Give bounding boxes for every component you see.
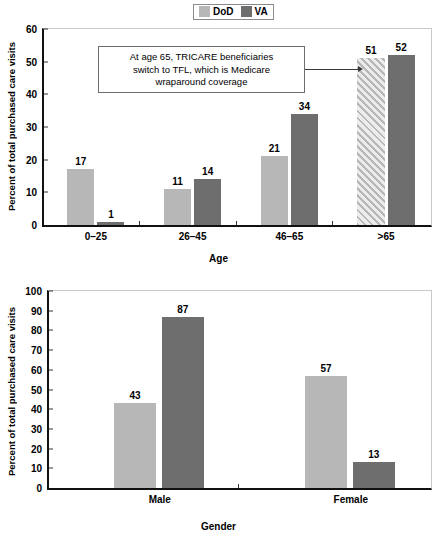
- gender-x-tick-label-female: Female: [334, 494, 368, 505]
- age-y-tick-label-30: 30: [26, 122, 44, 133]
- bar-value-gender-female-dod: 57: [320, 363, 331, 374]
- age-x-tick-label-46-65: 46–65: [275, 231, 303, 242]
- gender-y-tick-mark-100: [49, 291, 53, 292]
- bar-gender-male-dod: 43: [114, 403, 156, 488]
- gender-y-tick-mark-90: [49, 310, 53, 311]
- bar-value-gender-male-va: 87: [177, 304, 188, 315]
- gender-y-tick-label-20: 20: [31, 443, 49, 454]
- age-x-tick-mark-1: [139, 221, 140, 225]
- bar-age-46-65-va: 34: [291, 114, 318, 225]
- bar-value-age-over-65-dod: 51: [365, 45, 376, 56]
- gender-y-tick-label-50: 50: [31, 384, 49, 395]
- bar-value-age-over-65-va: 52: [396, 42, 407, 53]
- age-y-tick-label-10: 10: [26, 187, 44, 198]
- gender-chart-plot-area: 100 90 80 70 60 50 40 30 20 10 0 43: [47, 290, 432, 490]
- bar-value-age-0-25-dod: 17: [75, 156, 86, 167]
- bar-value-age-46-65-dod: 21: [269, 143, 280, 154]
- age-chart-y-axis-title: Percent of total purchased care visits: [6, 27, 17, 227]
- age-chart-x-axis-title: Age: [0, 253, 437, 264]
- bar-age-0-25-va: 1: [97, 222, 124, 225]
- age-y-tick-mark-50: [44, 61, 48, 62]
- age-chart-panel: Percent of total purchased care visits 6…: [0, 0, 437, 268]
- age-x-tick-label-0-25: 0–25: [85, 231, 107, 242]
- gender-x-tick-mark-1: [238, 484, 239, 488]
- bar-gender-female-dod: 57: [305, 376, 347, 488]
- bar-age-46-65-dod: 21: [261, 156, 288, 225]
- gender-y-tick-mark-70: [49, 350, 53, 351]
- age-y-tick-label-60: 60: [26, 24, 44, 35]
- gender-y-tick-label-30: 30: [31, 423, 49, 434]
- gender-y-tick-label-10: 10: [31, 463, 49, 474]
- age-y-tick-label-0: 0: [31, 220, 44, 231]
- gender-y-tick-mark-60: [49, 369, 53, 370]
- bar-age-over-65-va: 52: [388, 55, 415, 225]
- age-y-tick-label-20: 20: [26, 154, 44, 165]
- gender-y-tick-mark-10: [49, 468, 53, 469]
- bar-value-age-26-45-dod: 11: [172, 176, 183, 187]
- gender-y-tick-label-60: 60: [31, 364, 49, 375]
- bar-value-gender-male-dod: 43: [129, 390, 140, 401]
- gender-y-tick-label-0: 0: [36, 483, 49, 494]
- gender-y-tick-mark-30: [49, 428, 53, 429]
- age-x-tick-mark-2: [236, 221, 237, 225]
- age-x-tick-label-26-45: 26–45: [179, 231, 207, 242]
- age-y-tick-label-50: 50: [26, 56, 44, 67]
- bar-gender-male-va: 87: [162, 317, 204, 488]
- gender-y-tick-label-90: 90: [31, 305, 49, 316]
- gender-y-tick-mark-50: [49, 389, 53, 390]
- bar-age-26-45-va: 14: [194, 179, 221, 225]
- gender-y-tick-label-70: 70: [31, 345, 49, 356]
- gender-x-tick-label-male: Male: [149, 494, 171, 505]
- gender-y-tick-label-80: 80: [31, 325, 49, 336]
- age-y-tick-mark-20: [44, 159, 48, 160]
- bar-value-gender-female-va: 13: [368, 449, 379, 460]
- age-x-tick-label-over-65: >65: [378, 231, 395, 242]
- annotation-arrow-head: [358, 66, 363, 72]
- gender-chart-x-axis-title: Gender: [0, 521, 437, 532]
- age-y-tick-mark-40: [44, 94, 48, 95]
- age-chart-annotation: At age 65, TRICARE beneficiaries switch …: [98, 46, 305, 93]
- annotation-line-2: switch to TFL, which is Medicare: [105, 64, 298, 77]
- bar-value-age-26-45-va: 14: [202, 166, 213, 177]
- bar-age-over-65-dod: 51: [357, 58, 384, 225]
- annotation-arrow-line: [305, 69, 358, 70]
- bar-value-age-0-25-va: 1: [108, 209, 114, 220]
- annotation-line-3: wraparound coverage: [105, 76, 298, 89]
- gender-y-tick-label-100: 100: [25, 286, 49, 297]
- age-y-tick-mark-30: [44, 127, 48, 128]
- bar-value-age-46-65-va: 34: [299, 101, 310, 112]
- gender-y-tick-mark-40: [49, 409, 53, 410]
- gender-y-tick-label-40: 40: [31, 404, 49, 415]
- bar-age-0-25-dod: 17: [67, 169, 94, 225]
- bar-gender-female-va: 13: [353, 462, 395, 488]
- age-y-tick-mark-60: [44, 29, 48, 30]
- gender-chart-y-axis-title: Percent of total purchased care visits: [6, 292, 17, 492]
- bar-age-26-45-dod: 11: [164, 189, 191, 225]
- gender-y-tick-mark-80: [49, 330, 53, 331]
- age-y-tick-mark-10: [44, 192, 48, 193]
- annotation-line-1: At age 65, TRICARE beneficiaries: [105, 51, 298, 64]
- gender-y-tick-mark-20: [49, 448, 53, 449]
- age-y-tick-label-40: 40: [26, 89, 44, 100]
- age-x-tick-mark-3: [332, 221, 333, 225]
- gender-chart-panel: Percent of total purchased care visits 1…: [0, 276, 437, 543]
